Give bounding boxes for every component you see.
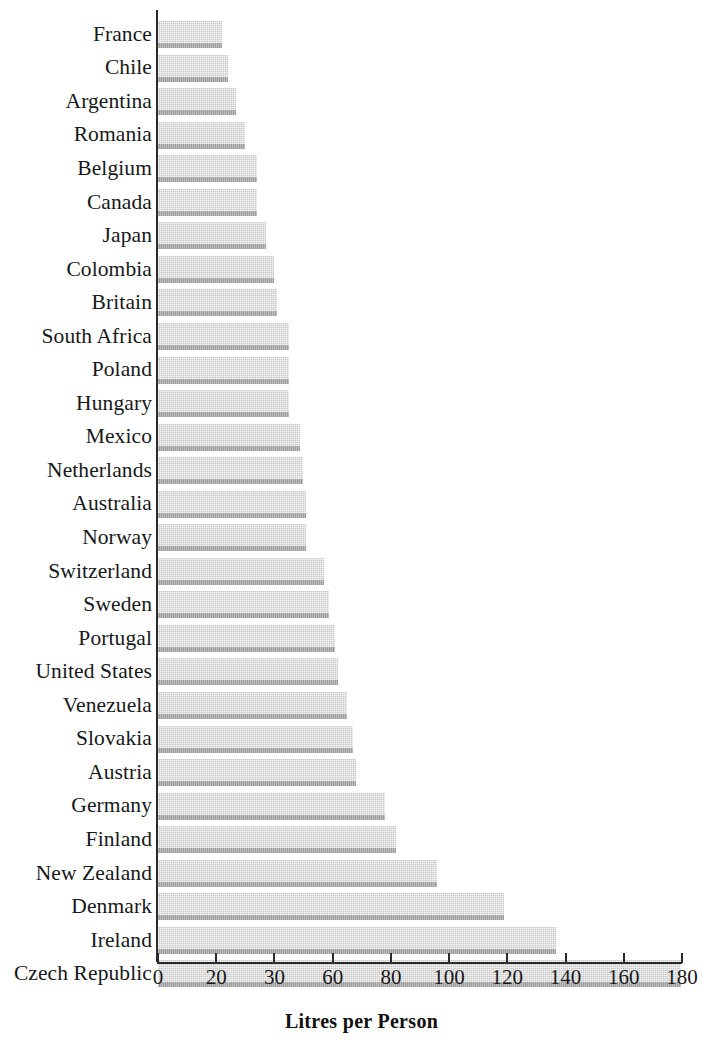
x-axis-tick-label: 80 <box>361 967 421 988</box>
bar-chart: FranceChileArgentinaRomaniaBelgiumCanada… <box>0 0 723 1053</box>
x-axis-tick-label: 20 <box>186 967 246 988</box>
bar-shadow <box>158 513 306 518</box>
x-axis-tick <box>448 953 450 963</box>
category-label: Chile <box>105 57 152 79</box>
bar-body <box>158 390 289 412</box>
bar-row: Switzerland <box>0 555 723 589</box>
bar-shadow <box>158 714 347 719</box>
bar <box>158 793 385 820</box>
category-label: Germany <box>71 795 152 817</box>
bar-shadow <box>158 915 504 920</box>
x-axis-tick <box>506 953 508 963</box>
category-label: Norway <box>82 527 152 549</box>
bar-body <box>158 189 257 211</box>
bar-row: Britain <box>0 286 723 320</box>
bar-shadow <box>158 479 303 484</box>
bar-shadow <box>158 278 274 283</box>
category-label: Japan <box>103 225 152 247</box>
x-axis-tick <box>565 953 567 963</box>
bar-shadow <box>158 613 329 618</box>
bar-body <box>158 357 289 379</box>
bar-row: New Zealand <box>0 857 723 891</box>
bar-shadow <box>158 345 289 350</box>
bar-body <box>158 927 556 949</box>
bar-row: Argentina <box>0 85 723 119</box>
bar-shadow <box>158 815 385 820</box>
bar-body <box>158 155 257 177</box>
bar-body <box>158 424 300 446</box>
bar-row: Hungary <box>0 387 723 421</box>
bar-row: Sweden <box>0 588 723 622</box>
category-label: Switzerland <box>48 560 152 582</box>
bar-body <box>158 893 504 915</box>
x-axis-tick-label: 160 <box>594 967 654 988</box>
bar <box>158 390 289 417</box>
bar-shadow <box>158 546 306 551</box>
bar-row: Venezuela <box>0 689 723 723</box>
bar-body <box>158 793 385 815</box>
bar-body <box>158 289 277 311</box>
bar <box>158 323 289 350</box>
category-label: South Africa <box>42 326 152 348</box>
bar-body <box>158 692 347 714</box>
bar <box>158 524 306 551</box>
bar <box>158 256 274 283</box>
bar-shadow <box>158 748 353 753</box>
bar-row: Portugal <box>0 622 723 656</box>
bar-row: Slovakia <box>0 723 723 757</box>
bar-shadow <box>158 580 324 585</box>
bar-shadow <box>158 680 338 685</box>
bar-row: Mexico <box>0 421 723 455</box>
bar <box>158 625 335 652</box>
x-axis-tick-label: 180 <box>652 967 712 988</box>
bar-body <box>158 457 303 479</box>
category-label: Sweden <box>83 594 152 616</box>
bar-body <box>158 491 306 513</box>
bar-row: Poland <box>0 354 723 388</box>
bar <box>158 558 324 585</box>
bar <box>158 759 356 786</box>
bar-body <box>158 323 289 345</box>
x-axis-tick-label: 120 <box>477 967 537 988</box>
bar-row: Chile <box>0 52 723 86</box>
bar-body <box>158 122 245 144</box>
bar-body <box>158 88 236 110</box>
x-axis-tick <box>681 953 683 963</box>
bar <box>158 155 257 182</box>
bar-row: Colombia <box>0 253 723 287</box>
bar-shadow <box>158 949 556 954</box>
bar-row: United States <box>0 655 723 689</box>
bar <box>158 21 222 48</box>
bar <box>158 289 277 316</box>
bar <box>158 88 236 115</box>
x-axis-tick <box>157 953 159 963</box>
x-axis-tick <box>332 953 334 963</box>
category-label: Ireland <box>90 929 152 951</box>
bar-shadow <box>158 244 266 249</box>
x-axis-tick-label: 140 <box>536 967 596 988</box>
bar <box>158 457 303 484</box>
x-axis-tick-label: 100 <box>419 967 479 988</box>
bar <box>158 893 504 920</box>
bar-row: France <box>0 18 723 52</box>
bar-row: Belgium <box>0 152 723 186</box>
bar-row: Australia <box>0 488 723 522</box>
bar-body <box>158 759 356 781</box>
bar-row: Austria <box>0 756 723 790</box>
category-label: Colombia <box>66 258 152 280</box>
category-label: Denmark <box>71 896 152 918</box>
bar-shadow <box>158 144 245 149</box>
bar-shadow <box>158 177 257 182</box>
bar-shadow <box>158 647 335 652</box>
bar-row: South Africa <box>0 320 723 354</box>
bar <box>158 726 353 753</box>
bar-shadow <box>158 379 289 384</box>
x-axis-tick <box>273 953 275 963</box>
category-label: Venezuela <box>63 695 152 717</box>
bar-body <box>158 558 324 580</box>
bar-body <box>158 726 353 748</box>
category-label: France <box>93 24 152 46</box>
bar-shadow <box>158 781 356 786</box>
bar <box>158 189 257 216</box>
category-label: United States <box>35 661 152 683</box>
